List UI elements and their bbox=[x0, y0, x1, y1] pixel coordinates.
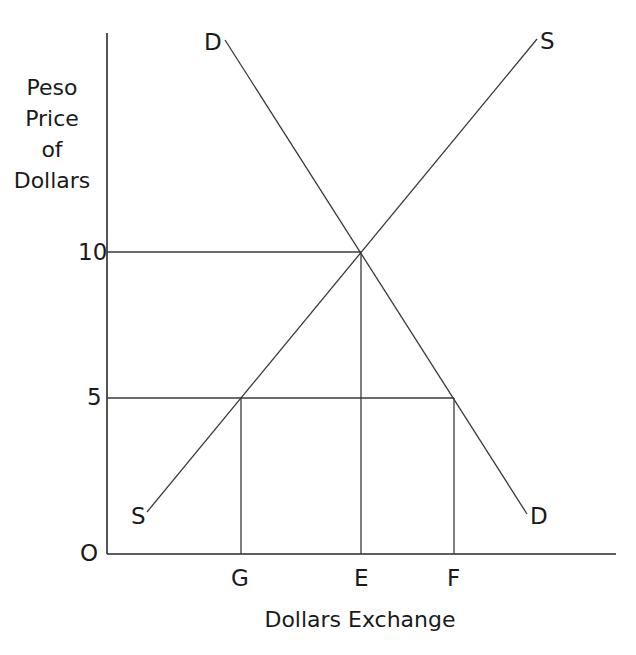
x-axis-title: Dollars Exchange bbox=[240, 609, 480, 631]
y-axis-title-line-2: Price bbox=[0, 103, 104, 134]
x-tick-e: E bbox=[354, 567, 369, 590]
y-tick-10: 10 bbox=[78, 241, 107, 264]
supply-label-bottom: S bbox=[131, 505, 146, 528]
demand-label-top: D bbox=[204, 31, 222, 54]
y-axis-title-line-4: Dollars bbox=[0, 165, 104, 196]
y-axis-title-line-3: of bbox=[0, 134, 104, 165]
supply-label-top: S bbox=[540, 30, 555, 53]
y-tick-5: 5 bbox=[87, 386, 102, 409]
y-axis-title: Peso Price of Dollars bbox=[0, 72, 104, 196]
x-tick-f: F bbox=[447, 567, 460, 590]
y-axis-title-line-1: Peso bbox=[0, 72, 104, 103]
x-tick-g: G bbox=[231, 567, 249, 590]
demand-curve bbox=[225, 40, 527, 514]
supply-curve bbox=[147, 39, 537, 512]
origin-label: O bbox=[80, 542, 98, 565]
demand-label-bottom: D bbox=[530, 505, 548, 528]
